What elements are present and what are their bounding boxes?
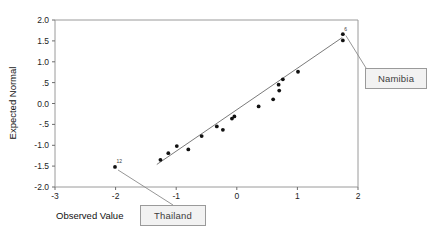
callout-thailand-label: Thailand: [154, 210, 192, 221]
data-point-label: 6: [344, 26, 347, 32]
y-tick-label: -.5: [39, 119, 49, 129]
callout-thailand[interactable]: Thailand: [140, 205, 206, 226]
data-point: [186, 148, 190, 152]
data-point: [296, 70, 300, 74]
data-point-label: 12: [116, 158, 122, 164]
callout-leader-lines: [118, 36, 366, 205]
y-tick-label: .5: [42, 78, 49, 88]
y-tick-label: -1.0: [34, 140, 49, 150]
data-point: [257, 105, 261, 109]
y-tick-label: -2.0: [34, 182, 49, 192]
data-point: [200, 134, 204, 138]
x-axis-tick-labels: -3 -2 -1 0 1 2: [51, 191, 360, 201]
callout-namibia-label: Namibia: [378, 73, 414, 84]
y-axis-tick-labels: 2.0 1.5 1.0 .5 0.0 -.5 -1.0 -1.5 -2.0: [34, 15, 49, 192]
data-point: [232, 115, 236, 119]
data-point: [166, 151, 170, 155]
leader-line-namibia: [346, 36, 366, 68]
data-point: [277, 83, 281, 87]
qq-plot-figure: 2.0 1.5 1.0 .5 0.0 -.5 -1.0 -1.5 -2.0 -3…: [0, 0, 444, 245]
data-point: [113, 165, 117, 169]
y-axis-title: Expected Normal: [7, 67, 18, 140]
data-point-labels: 126: [116, 26, 347, 165]
x-tick-label: 1: [295, 191, 300, 201]
plot-frame: [55, 20, 358, 187]
data-point: [341, 39, 345, 43]
x-tick-label: -2: [112, 191, 120, 201]
data-point: [277, 89, 281, 93]
x-tick-label: 2: [356, 191, 361, 201]
y-tick-label: 0.0: [37, 99, 49, 109]
x-tick-label: -3: [51, 191, 59, 201]
data-point-series: [113, 32, 345, 169]
x-tick-label: 0: [234, 191, 239, 201]
data-point: [271, 97, 275, 101]
data-point: [159, 158, 163, 162]
y-tick-label: 1.0: [37, 57, 49, 67]
data-point: [215, 125, 219, 129]
plot-canvas: 2.0 1.5 1.0 .5 0.0 -.5 -1.0 -1.5 -2.0 -3…: [0, 0, 444, 245]
data-point: [221, 128, 225, 132]
data-point: [175, 144, 179, 148]
x-tick-label: -1: [172, 191, 180, 201]
data-point: [341, 32, 345, 36]
reference-fit-line: [157, 38, 342, 165]
y-tick-label: -1.5: [34, 161, 49, 171]
callout-namibia[interactable]: Namibia: [365, 68, 427, 89]
y-tick-label: 2.0: [37, 15, 49, 25]
data-point: [281, 77, 285, 81]
y-tick-label: 1.5: [37, 36, 49, 46]
x-axis-title: Observed Value: [56, 210, 123, 221]
